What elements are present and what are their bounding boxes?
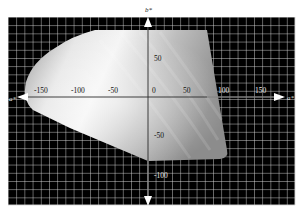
- b-axis-label: b*: [145, 6, 153, 14]
- ab-gamut-diagram: b* a* a* -150 -100 -50 0 50 100 150 50 -…: [0, 0, 303, 220]
- tick-x-0: 0: [152, 86, 156, 95]
- a-axis-label: a*: [287, 94, 295, 102]
- tick-y-50: 50: [154, 54, 162, 63]
- tick-y-m100: -100: [154, 171, 168, 180]
- tick-y-m50: -50: [154, 131, 164, 140]
- tick-x-50: 50: [183, 86, 191, 95]
- a-axis-neg-label: a*: [9, 95, 17, 103]
- tick-x-100: 100: [218, 86, 230, 95]
- tick-x-m100: -100: [71, 86, 85, 95]
- tick-x-m150: -150: [34, 86, 48, 95]
- tick-x-m50: -50: [108, 86, 118, 95]
- tick-x-150: 150: [255, 86, 267, 95]
